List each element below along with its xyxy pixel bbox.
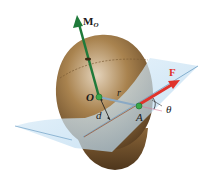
label-moment: MO — [83, 16, 98, 29]
moment-pierce-mark — [85, 58, 91, 61]
moment-diagram: MO F O r d A θ — [0, 0, 212, 175]
label-angle: θ — [166, 104, 171, 115]
label-point-A: A — [136, 112, 143, 123]
point-A — [136, 103, 142, 109]
point-O — [96, 94, 102, 100]
diagram-canvas — [0, 0, 212, 175]
label-force: F — [169, 67, 176, 78]
label-position-vector: r — [117, 88, 121, 98]
label-origin: O — [86, 92, 94, 103]
moment-arrowhead — [73, 15, 83, 28]
label-moment-arm: d — [96, 110, 102, 121]
